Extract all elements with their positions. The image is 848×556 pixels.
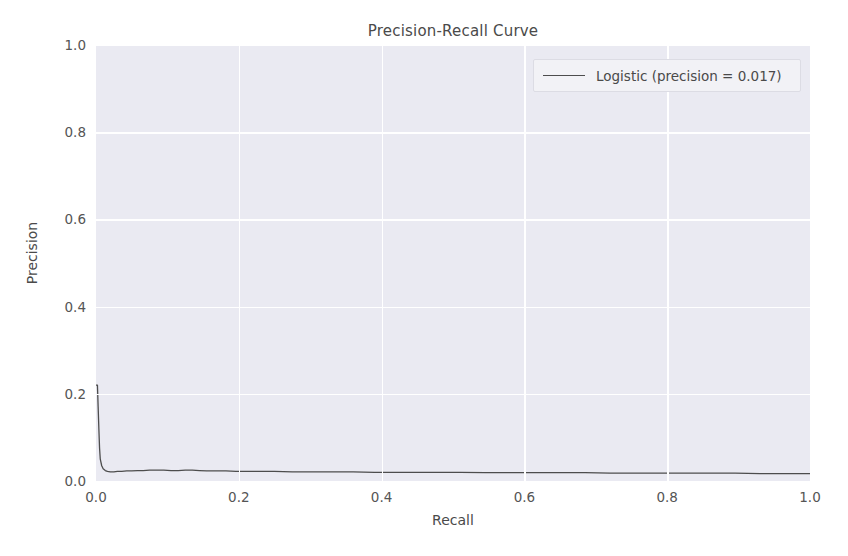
x-axis-label: Recall [96,512,810,528]
x-tick-label-1: 0.2 [209,489,269,505]
legend-line-swatch-icon [543,75,585,76]
x-tick-label-0: 0.0 [66,489,126,505]
x-tick-label-4: 0.8 [637,489,697,505]
figure-canvas: Precision-Recall Curve Precision 0.00.20… [0,0,848,556]
y-tick-label-2: 0.4 [46,299,86,315]
gridline-horizontal-1 [96,394,810,395]
gridline-horizontal-4 [96,132,810,133]
chart-legend: Logistic (precision = 0.017) [533,59,801,92]
y-tick-label-5: 1.0 [46,37,86,53]
x-tick-label-2: 0.4 [352,489,412,505]
gridline-horizontal-5 [96,45,810,46]
y-tick-label-1: 0.2 [46,386,86,402]
y-axis-tick-labels: 0.00.20.40.60.81.0 [40,45,86,481]
series-line-logistic [96,385,810,474]
gridline-vertical-1 [239,45,240,481]
plot-area [96,45,810,481]
gridline-horizontal-2 [96,307,810,308]
gridline-vertical-4 [667,45,668,481]
y-tick-label-0: 0.0 [46,473,86,489]
gridline-horizontal-3 [96,219,810,220]
x-axis-tick-labels: 0.00.20.40.60.81.0 [96,489,810,509]
y-axis-label: Precision [24,203,40,303]
x-tick-label-5: 1.0 [780,489,840,505]
y-tick-label-4: 0.8 [46,124,86,140]
precision-recall-curve-svg [96,45,810,481]
legend-entry-label: Logistic (precision = 0.017) [596,68,782,84]
chart-title: Precision-Recall Curve [96,22,810,40]
x-tick-label-3: 0.6 [494,489,554,505]
gridline-vertical-3 [524,45,525,481]
gridline-vertical-2 [382,45,383,481]
y-tick-label-3: 0.6 [46,211,86,227]
